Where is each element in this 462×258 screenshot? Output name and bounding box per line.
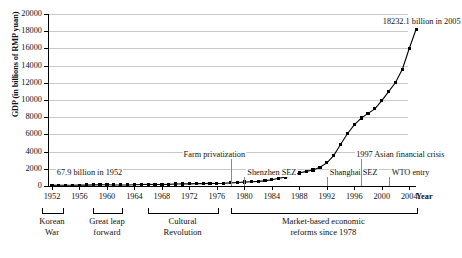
- x-tick-label: 1992: [319, 192, 336, 201]
- data-point: [339, 143, 342, 146]
- annotation-line-shenzhen-sez: [244, 177, 245, 186]
- era-bracket-korean-war: [42, 208, 65, 214]
- x-tick-label: 2000: [373, 192, 390, 201]
- era-label-great-leap-forward: Great leapforward: [89, 216, 125, 238]
- plot-area: 0200040006000800010000120001400016000180…: [48, 14, 408, 186]
- data-point: [181, 182, 184, 185]
- era-label-line: Cultural: [163, 216, 201, 227]
- era-bracket-cultural-revolution: [148, 208, 219, 214]
- data-point: [50, 184, 53, 187]
- data-point: [394, 81, 397, 84]
- data-point: [332, 154, 335, 157]
- era-label-korean-war: KoreanWar: [39, 216, 64, 238]
- data-point: [263, 179, 266, 182]
- data-point: [98, 183, 101, 186]
- y-axis-title: GDP (in billions of RMP yuan): [11, 0, 20, 140]
- data-point: [202, 182, 205, 185]
- era-label-line: reforms since 1978: [282, 227, 365, 238]
- y-tick-label: 4000: [25, 148, 42, 156]
- y-tick-label: 6000: [25, 130, 42, 138]
- data-point: [250, 180, 253, 183]
- era-label-line: Market-based economic: [282, 216, 365, 227]
- era-label-line: forward: [89, 227, 125, 238]
- x-tick: [409, 186, 410, 190]
- data-point: [126, 183, 129, 186]
- data-point: [311, 168, 314, 171]
- y-tick-label: 10000: [21, 96, 42, 104]
- data-point: [112, 183, 115, 186]
- data-point: [318, 166, 321, 169]
- data-point: [78, 184, 81, 187]
- x-tick-label: 1976: [209, 192, 226, 201]
- data-point: [325, 161, 328, 164]
- x-tick-label: 1988: [291, 192, 308, 201]
- data-point: [85, 183, 88, 186]
- data-point: [270, 178, 273, 181]
- data-point: [373, 107, 376, 110]
- data-point: [298, 171, 301, 174]
- data-point: [140, 183, 143, 186]
- y-tick-label: 2000: [25, 165, 42, 173]
- y-tick-label: 12000: [21, 79, 42, 87]
- x-tick-label: 1984: [264, 192, 281, 201]
- x-tick-label: 1996: [346, 192, 363, 201]
- x-tick-label: 1972: [181, 192, 198, 201]
- data-point: [360, 116, 363, 119]
- data-point: [167, 183, 170, 186]
- data-point: [133, 183, 136, 186]
- era-label-line: War: [39, 227, 64, 238]
- data-point: [366, 112, 369, 115]
- era-label-line: Korean: [39, 216, 64, 227]
- y-tick-label: 20000: [21, 10, 42, 18]
- x-tick-label: 1980: [236, 192, 253, 201]
- data-point: [380, 99, 383, 102]
- data-point: [71, 184, 74, 187]
- era-label-line: Revolution: [163, 227, 201, 238]
- data-point: [353, 123, 356, 126]
- annotation-start-value: 67.9 billion in 1952: [56, 168, 123, 177]
- data-point: [215, 182, 218, 185]
- era-label-line: Great leap: [89, 216, 125, 227]
- x-axis-title: Year: [416, 192, 433, 201]
- x-tick-label: 1960: [99, 192, 116, 201]
- data-point: [147, 183, 150, 186]
- data-point: [305, 170, 308, 173]
- data-point: [195, 182, 198, 185]
- data-point: [119, 183, 122, 186]
- era-label-market-reforms: Market-based economicreforms since 1978: [282, 216, 365, 238]
- annotation-asian-crisis: 1997 Asian financial crisis: [355, 150, 445, 159]
- data-point: [174, 182, 177, 185]
- data-point: [346, 132, 349, 135]
- data-point: [160, 183, 163, 186]
- data-point: [387, 90, 390, 93]
- data-point: [408, 47, 411, 50]
- annotation-line-shanghai-sez: [327, 177, 328, 186]
- series-line-china-gdp: [48, 14, 408, 187]
- data-point: [236, 181, 239, 184]
- data-point: [222, 182, 225, 185]
- annotation-end-value: 18232.1 billion in 2005: [382, 17, 462, 26]
- y-tick-label: 14000: [21, 62, 42, 70]
- x-tick-label: 1964: [126, 192, 143, 201]
- era-bracket-market-reforms: [231, 208, 418, 214]
- data-point: [415, 28, 418, 31]
- data-point: [257, 180, 260, 183]
- annotation-line-asian-crisis: [361, 159, 362, 186]
- era-bracket-great-leap-forward: [93, 208, 122, 214]
- x-tick-label: 1952: [44, 192, 61, 201]
- annotation-shenzhen-sez: Shenzhen SEZ: [246, 168, 297, 177]
- era-label-cultural-revolution: CulturalRevolution: [163, 216, 201, 238]
- x-tick-label: 1956: [71, 192, 88, 201]
- y-tick-label: 0: [38, 182, 42, 190]
- annotation-line-farm-privatization: [231, 159, 232, 186]
- y-tick-label: 16000: [21, 44, 42, 52]
- annotation-farm-privatization: Farm privatization: [183, 150, 247, 159]
- y-tick-label: 8000: [25, 113, 42, 121]
- annotation-line-wto-entry: [389, 177, 390, 186]
- data-point: [277, 177, 280, 180]
- annotation-shanghai-sez: Shanghai SEZ: [329, 168, 379, 177]
- data-point: [57, 184, 60, 187]
- annotation-wto-entry: WTO entry: [391, 168, 431, 177]
- data-point: [64, 184, 67, 187]
